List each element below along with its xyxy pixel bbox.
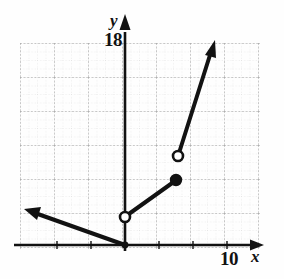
x-axis-max-tick-label: 10	[220, 249, 238, 268]
x-axis-label: x	[251, 248, 260, 265]
marker-open-circle-y-intercept	[120, 212, 130, 222]
graph-figure: y 18 10 x	[0, 0, 284, 279]
marker-open-circle-ray-start	[173, 151, 183, 161]
y-axis-label: y	[110, 12, 118, 29]
origin-point	[122, 242, 129, 249]
coordinate-plane-svg	[0, 0, 284, 279]
y-axis-max-tick-label: 18	[104, 30, 122, 49]
marker-closed-circle-segment-end	[171, 175, 181, 185]
